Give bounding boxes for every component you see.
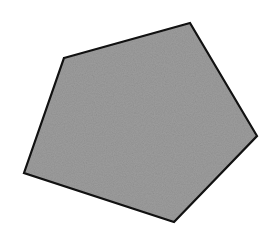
pentagon-diagram [0, 0, 269, 229]
pentagon-shape [24, 23, 257, 222]
diagram-canvas [0, 0, 269, 229]
